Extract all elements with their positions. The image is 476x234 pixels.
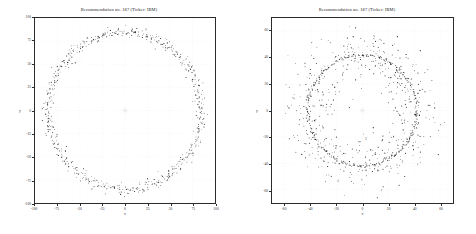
- chart-title-right: Recommendation no. 187 (Ticker: IBM): [238, 7, 476, 12]
- y-tick-mark: [32, 64, 34, 65]
- chart-panel-left: Recommendation no. 187 (Ticker: IBM) -10…: [0, 0, 238, 234]
- y-tick-mark: [32, 204, 34, 205]
- scatter-plot-right: 1: [272, 18, 453, 203]
- x-tick-label: 100: [213, 207, 218, 211]
- x-tick-label: 50: [169, 207, 173, 211]
- plot-area-right: 1: [271, 17, 454, 204]
- x-axis-label-left: x: [124, 212, 126, 216]
- y-tick-label: 0: [29, 109, 31, 113]
- x-tick-label: 40: [413, 207, 417, 211]
- y-tick-mark: [32, 87, 34, 88]
- y-tick-label: 25: [27, 85, 31, 89]
- scatter-plot-left: [35, 18, 215, 203]
- y-tick-mark: [32, 17, 34, 18]
- y-tick-mark: [32, 157, 34, 158]
- y-tick-mark: [32, 134, 34, 135]
- x-tick-label: 75: [191, 207, 195, 211]
- x-tick-label: -60: [282, 207, 287, 211]
- x-tick-label: -100: [31, 207, 38, 211]
- y-tick-label: 75: [27, 38, 31, 42]
- y-tick-mark: [269, 164, 271, 165]
- y-tick-label: -100: [24, 202, 31, 206]
- chart-title-left: Recommendation no. 187 (Ticker: IBM): [0, 7, 238, 12]
- figure-canvas: Recommendation no. 187 (Ticker: IBM) -10…: [0, 0, 476, 234]
- y-tick-mark: [32, 40, 34, 41]
- y-axis-label-left: y: [19, 109, 21, 113]
- svg-text:1: 1: [365, 136, 367, 141]
- plot-area-left: [34, 17, 216, 204]
- y-tick-label: 20: [264, 82, 268, 86]
- chart-panel-right: Recommendation no. 187 (Ticker: IBM) 1 -…: [238, 0, 476, 234]
- y-tick-mark: [32, 181, 34, 182]
- y-tick-label: 60: [264, 28, 268, 32]
- x-tick-label: 25: [146, 207, 150, 211]
- y-tick-label: 50: [27, 62, 31, 66]
- y-tick-label: -50: [26, 155, 31, 159]
- y-tick-label: -20: [263, 135, 268, 139]
- y-tick-mark: [269, 191, 271, 192]
- y-tick-mark: [269, 84, 271, 85]
- x-tick-label: 20: [387, 207, 391, 211]
- x-axis-label-right: x: [362, 212, 364, 216]
- y-tick-label: 0: [266, 109, 268, 113]
- y-tick-mark: [32, 111, 34, 112]
- y-tick-label: 40: [264, 55, 268, 59]
- y-tick-label: -60: [263, 189, 268, 193]
- x-tick-label: 60: [439, 207, 443, 211]
- y-axis-label-right: y: [256, 109, 258, 113]
- x-tick-label: 0: [124, 207, 126, 211]
- x-tick-label: -40: [308, 207, 313, 211]
- y-tick-label: -75: [26, 179, 31, 183]
- x-tick-label: -25: [100, 207, 105, 211]
- y-tick-label: -40: [263, 162, 268, 166]
- y-tick-mark: [269, 57, 271, 58]
- x-tick-label: -50: [77, 207, 82, 211]
- x-tick-label: -75: [54, 207, 59, 211]
- y-tick-mark: [269, 137, 271, 138]
- y-tick-mark: [269, 111, 271, 112]
- x-tick-label: -20: [334, 207, 339, 211]
- y-tick-label: 100: [26, 15, 31, 19]
- y-tick-label: -25: [26, 132, 31, 136]
- x-tick-label: 0: [362, 207, 364, 211]
- y-tick-mark: [269, 30, 271, 31]
